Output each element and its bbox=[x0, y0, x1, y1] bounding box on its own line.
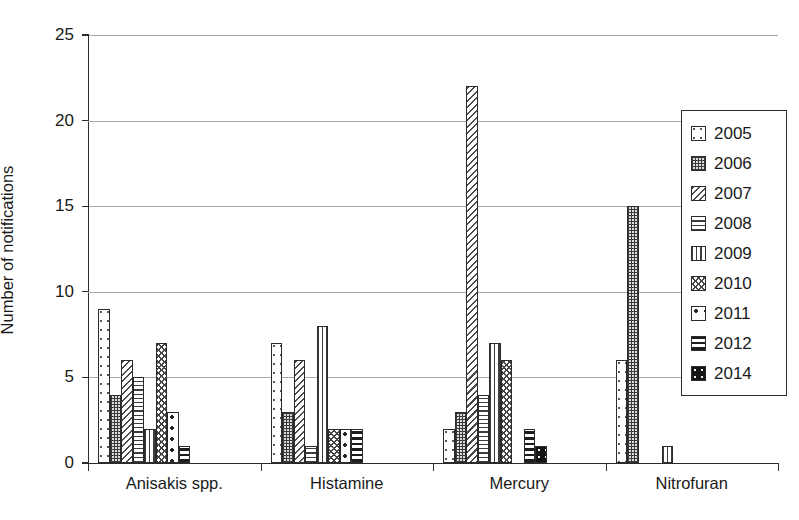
gridline-5 bbox=[88, 377, 778, 378]
legend-swatch-vertical-lines-icon bbox=[691, 246, 706, 261]
legend-item-2012[interactable]: 2012 bbox=[682, 328, 786, 358]
bar-mercury-2005 bbox=[443, 429, 455, 463]
bar-mercury-2006 bbox=[455, 412, 467, 463]
legend-swatch-horizontal-lines-icon bbox=[691, 216, 706, 231]
legend-label-2009: 2009 bbox=[714, 245, 752, 262]
x-tick-mark-1 bbox=[261, 463, 262, 471]
y-tick-mark-25 bbox=[82, 34, 89, 35]
y-axis-title: Number of notifications bbox=[0, 0, 17, 150]
bar-anisakisspp-2010 bbox=[156, 343, 168, 463]
legend-label-2006: 2006 bbox=[714, 155, 752, 172]
bar-nitrofuran-2009 bbox=[662, 446, 674, 463]
legend-label-2007: 2007 bbox=[714, 185, 752, 202]
bar-mercury-2009 bbox=[489, 343, 501, 463]
legend-item-2009[interactable]: 2009 bbox=[682, 238, 786, 268]
legend-swatch-dense-checker-icon bbox=[691, 156, 706, 171]
legend-swatch-diagonal-hatch-icon bbox=[691, 186, 706, 201]
chart-legend: 200520062007200820092010201120122014 bbox=[681, 110, 787, 396]
legend-item-2007[interactable]: 2007 bbox=[682, 178, 786, 208]
y-tick-mark-5 bbox=[82, 377, 89, 378]
y-tick-label-0: 0 bbox=[34, 454, 74, 471]
bar-anisakisspp-2005 bbox=[98, 309, 110, 463]
legend-swatch-thick-bands-icon bbox=[691, 336, 706, 351]
gridline-25 bbox=[88, 35, 778, 36]
bar-anisakisspp-2012 bbox=[179, 446, 191, 463]
legend-label-2012: 2012 bbox=[714, 335, 752, 352]
y-tick-mark-10 bbox=[82, 291, 89, 292]
bar-anisakisspp-2011 bbox=[167, 412, 179, 463]
bar-histamine-2010 bbox=[328, 429, 340, 463]
x-tick-mark-2 bbox=[433, 463, 434, 471]
bar-histamine-2005 bbox=[271, 343, 283, 463]
bar-anisakisspp-2006 bbox=[110, 395, 122, 463]
bar-mercury-2010 bbox=[501, 360, 513, 463]
legend-swatch-sparse-dots-icon bbox=[691, 126, 706, 141]
bar-anisakisspp-2007 bbox=[121, 360, 133, 463]
bar-mercury-2014 bbox=[535, 446, 547, 463]
x-tick-mark-3 bbox=[606, 463, 607, 471]
x-group-label-2: Mercury bbox=[433, 474, 606, 493]
x-group-label-1: Histamine bbox=[261, 474, 434, 493]
x-tick-mark-0 bbox=[88, 463, 89, 471]
x-group-label-0: Anisakis spp. bbox=[88, 474, 261, 493]
legend-item-2005[interactable]: 2005 bbox=[682, 118, 786, 148]
bar-histamine-2009 bbox=[317, 326, 329, 463]
legend-item-2010[interactable]: 2010 bbox=[682, 268, 786, 298]
bar-nitrofuran-2005 bbox=[616, 360, 628, 463]
bar-anisakisspp-2008 bbox=[133, 377, 145, 463]
legend-item-2014[interactable]: 2014 bbox=[682, 358, 786, 388]
bar-anisakisspp-2009 bbox=[144, 429, 156, 463]
bar-histamine-2007 bbox=[294, 360, 306, 463]
gridline-10 bbox=[88, 292, 778, 293]
legend-swatch-large-dots-icon bbox=[691, 306, 706, 321]
legend-item-2006[interactable]: 2006 bbox=[682, 148, 786, 178]
y-tick-mark-20 bbox=[82, 120, 89, 121]
legend-label-2010: 2010 bbox=[714, 275, 752, 292]
bar-mercury-2012 bbox=[524, 429, 536, 463]
bar-histamine-2008 bbox=[305, 446, 317, 463]
legend-label-2005: 2005 bbox=[714, 125, 752, 142]
bar-histamine-2011 bbox=[340, 429, 352, 463]
legend-item-2008[interactable]: 2008 bbox=[682, 208, 786, 238]
legend-label-2011: 2011 bbox=[714, 305, 751, 322]
bar-mercury-2007 bbox=[466, 86, 478, 463]
y-tick-label-20: 20 bbox=[34, 112, 74, 129]
x-group-label-3: Nitrofuran bbox=[606, 474, 779, 493]
bar-mercury-2008 bbox=[478, 395, 490, 463]
gridline-20 bbox=[88, 121, 778, 122]
y-tick-label-25: 25 bbox=[34, 26, 74, 43]
gridline-15 bbox=[88, 206, 778, 207]
y-tick-label-10: 10 bbox=[34, 283, 74, 300]
plot-area: 0510152025 bbox=[88, 35, 778, 463]
y-axis-title-text: Number of notifications bbox=[0, 150, 17, 350]
y-tick-label-15: 15 bbox=[34, 197, 74, 214]
bar-chart: Number of notifications 0510152025 20052… bbox=[0, 0, 799, 520]
y-tick-mark-15 bbox=[82, 206, 89, 207]
legend-swatch-cross-wave-icon bbox=[691, 276, 706, 291]
bar-histamine-2012 bbox=[351, 429, 363, 463]
y-tick-label-5: 5 bbox=[34, 368, 74, 385]
bar-histamine-2006 bbox=[282, 412, 294, 463]
legend-label-2014: 2014 bbox=[714, 365, 752, 382]
legend-item-2011[interactable]: 2011 bbox=[682, 298, 786, 328]
x-tick-mark-end bbox=[778, 463, 779, 471]
legend-label-2008: 2008 bbox=[714, 215, 752, 232]
legend-swatch-dark-dots-icon bbox=[691, 366, 706, 381]
bar-nitrofuran-2006 bbox=[627, 206, 639, 463]
